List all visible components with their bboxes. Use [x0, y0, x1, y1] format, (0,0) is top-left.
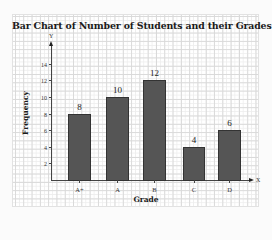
x-tick — [194, 180, 195, 183]
y-tick-label: 2 — [27, 161, 47, 167]
category-label: C — [179, 186, 209, 193]
bar-value-label: 4 — [179, 136, 209, 145]
bar-value-label: 12 — [140, 69, 170, 78]
x-tick — [154, 180, 155, 183]
y-tick — [49, 80, 52, 81]
x-tick — [79, 180, 80, 183]
x-tick — [229, 180, 230, 183]
y-tick-label: 14 — [27, 62, 47, 68]
y-tick-label: 4 — [27, 145, 47, 151]
y-tick — [49, 97, 52, 98]
y-tick — [49, 114, 52, 115]
y-tick — [49, 147, 52, 148]
y-axis-title: Frequency — [21, 91, 30, 135]
bar-a-plus — [68, 114, 91, 181]
y-tick — [49, 163, 52, 164]
x-axis-letter: X — [256, 177, 260, 183]
bar-value-label: 6 — [215, 119, 245, 128]
y-tick-label: 6 — [27, 128, 47, 134]
chart-title: Bar Chart of Number of Students and thei… — [12, 20, 259, 31]
y-axis-arrow-icon — [49, 41, 53, 46]
y-tick-label: 10 — [27, 95, 47, 101]
category-label: A+ — [65, 186, 95, 193]
bar-value-label: 10 — [103, 86, 133, 95]
category-label: D — [215, 186, 245, 193]
y-tick — [49, 64, 52, 65]
y-tick-label: 12 — [27, 78, 47, 84]
y-tick-label: 8 — [27, 112, 47, 118]
bar-c — [183, 147, 205, 181]
bar-a — [106, 97, 129, 181]
y-tick — [49, 130, 52, 131]
bar-d — [218, 130, 241, 181]
bar-value-label: 8 — [65, 103, 95, 112]
x-axis-arrow-icon — [249, 178, 254, 182]
x-axis-title: Grade — [126, 195, 166, 204]
bar-b — [143, 80, 166, 181]
y-axis-letter: Y — [49, 33, 53, 39]
category-label: B — [140, 186, 170, 193]
x-tick — [117, 180, 118, 183]
category-label: A — [103, 186, 133, 193]
